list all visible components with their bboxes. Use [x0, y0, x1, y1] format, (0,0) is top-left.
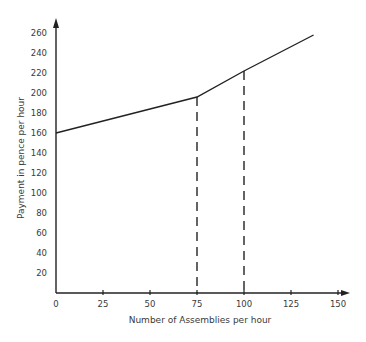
x-tick-label: 75 [192, 299, 203, 309]
x-tick-label: 0 [53, 299, 58, 309]
y-tick-label: 180 [31, 108, 47, 118]
x-tick-label: 25 [98, 299, 109, 309]
y-tick-label: 100 [31, 188, 47, 198]
x-tick-label: 50 [145, 299, 156, 309]
y-tick-label: 40 [36, 248, 47, 258]
dashed-guides [197, 71, 244, 293]
x-axis-label: Number of Assemblies per hour [129, 315, 272, 325]
x-axis-arrow-icon [341, 290, 350, 296]
y-tick-label: 240 [31, 48, 47, 58]
payment-line [56, 35, 314, 133]
y-tick-labels: 20406080100120140160180200220240260 [31, 28, 47, 278]
y-tick-label: 140 [31, 148, 47, 158]
y-tick-label: 220 [31, 68, 47, 78]
y-tick-label: 120 [31, 168, 47, 178]
y-axis-label: Payment in pence per hour [16, 97, 26, 219]
y-tick-label: 200 [31, 88, 47, 98]
y-tick-label: 260 [31, 28, 47, 38]
y-tick-label: 160 [31, 128, 47, 138]
y-tick-label: 60 [36, 228, 47, 238]
y-tick-label: 20 [36, 268, 47, 278]
chart: 20406080100120140160180200220240260 0255… [0, 0, 366, 342]
x-tick-label: 100 [236, 299, 252, 309]
y-tick-label: 80 [36, 208, 47, 218]
y-axis-arrow-icon [53, 18, 59, 28]
x-tick-label: 150 [330, 299, 346, 309]
x-tick-label: 125 [283, 299, 299, 309]
